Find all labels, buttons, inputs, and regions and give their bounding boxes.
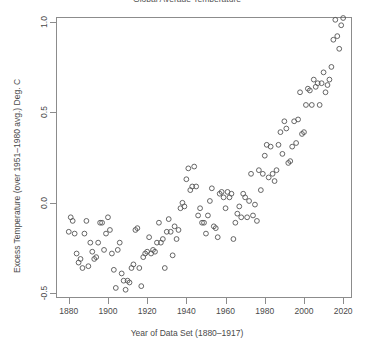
y-tick-label: 0.0 xyxy=(39,191,49,215)
x-tick-mark xyxy=(108,298,109,304)
y-tick-mark xyxy=(50,22,56,23)
y-tick-label: 1.0 xyxy=(39,10,49,34)
x-axis-title: Year of Data Set (1880–1917) xyxy=(0,328,374,338)
x-tick-mark xyxy=(69,298,70,304)
y-tick-mark xyxy=(50,293,56,294)
x-tick-label: 1960 xyxy=(206,306,246,316)
x-tick-label: 1900 xyxy=(88,306,128,316)
x-tick-label: 2000 xyxy=(284,306,324,316)
plot-area xyxy=(56,17,352,298)
x-tick-mark xyxy=(226,298,227,304)
x-tick-label: 1920 xyxy=(127,306,167,316)
x-tick-mark xyxy=(304,298,305,304)
chart-title: Global Average Temperature xyxy=(0,0,374,2)
x-tick-mark xyxy=(343,298,344,304)
y-axis-title-text: Excess Temperature (over 1951–1980 avg.)… xyxy=(12,78,22,272)
x-tick-mark xyxy=(147,298,148,304)
x-tick-mark xyxy=(186,298,187,304)
x-tick-label: 1980 xyxy=(245,306,285,316)
chart-root: Global Average Temperature Excess Temper… xyxy=(0,0,374,351)
x-tick-mark xyxy=(265,298,266,304)
y-axis-title: Excess Temperature (over 1951–1980 avg.)… xyxy=(10,0,24,351)
y-tick-mark xyxy=(50,112,56,113)
y-tick-label: 0.5 xyxy=(39,100,49,124)
x-tick-label: 2020 xyxy=(323,306,363,316)
y-tick-label: -0.5 xyxy=(39,281,49,305)
x-tick-label: 1880 xyxy=(49,306,89,316)
x-tick-label: 1940 xyxy=(166,306,206,316)
y-tick-mark xyxy=(50,203,56,204)
